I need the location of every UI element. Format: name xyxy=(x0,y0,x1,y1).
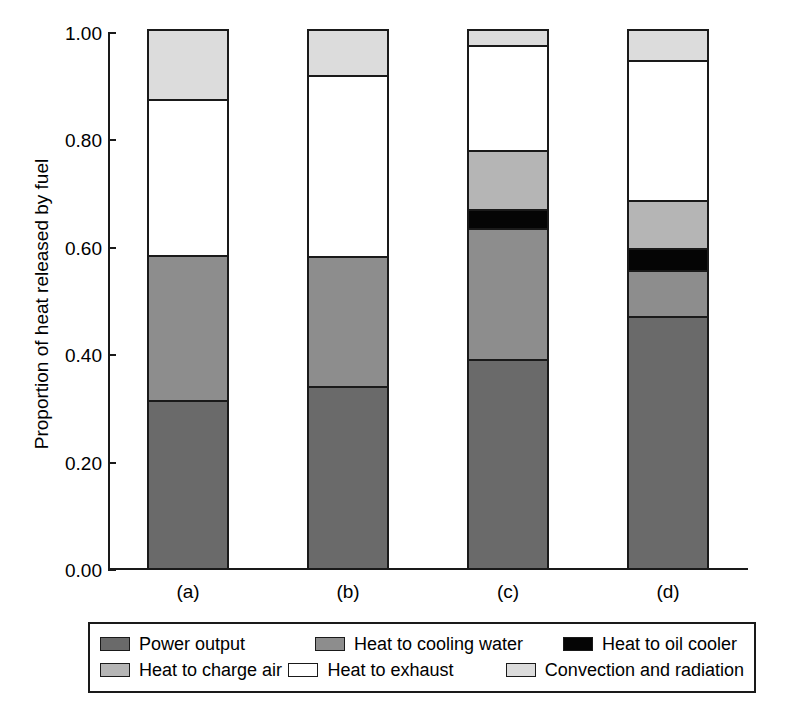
y-tick-mark xyxy=(108,32,116,34)
legend-item[interactable]: Convection and radiation xyxy=(506,660,744,681)
y-tick-label: 0.20 xyxy=(10,453,102,473)
y-axis-line xyxy=(108,33,110,571)
y-tick-label: 0.80 xyxy=(10,130,102,150)
bar-segment[interactable] xyxy=(309,77,387,258)
bar-segment[interactable] xyxy=(469,31,547,47)
bar-segment[interactable] xyxy=(469,230,547,362)
bar-segment[interactable] xyxy=(469,152,547,211)
bar-segment[interactable] xyxy=(629,250,707,271)
legend-row-top: Power outputHeat to cooling waterHeat to… xyxy=(100,631,744,657)
y-tick-mark xyxy=(108,462,116,464)
bar-segment[interactable] xyxy=(629,202,707,250)
plot-area: 0.000.200.400.600.801.00 (a)(b)(c)(d) xyxy=(108,33,748,570)
x-tick-label: (c) xyxy=(453,581,563,603)
y-tick-mark xyxy=(108,139,116,141)
x-tick-label: (a) xyxy=(133,581,243,603)
bar-segment[interactable] xyxy=(309,388,387,568)
bar-segment[interactable] xyxy=(469,211,547,230)
legend-label: Power output xyxy=(139,634,245,655)
x-axis-line xyxy=(108,568,748,570)
bar-segment[interactable] xyxy=(629,31,707,62)
legend-item[interactable]: Heat to oil cooler xyxy=(563,634,737,655)
legend-label: Heat to charge air xyxy=(139,660,282,681)
legend-label: Heat to exhaust xyxy=(327,660,453,681)
bar-segment[interactable] xyxy=(149,101,227,257)
bar-segment[interactable] xyxy=(149,31,227,101)
y-tick-label: 1.00 xyxy=(10,23,102,43)
bar-segment[interactable] xyxy=(469,361,547,568)
bar-segment[interactable] xyxy=(629,62,707,202)
legend-swatch-icon xyxy=(315,637,345,651)
stacked-bar[interactable] xyxy=(307,29,389,568)
stacked-bar-chart-figure: Proportion of heat released by fuel 0.00… xyxy=(0,0,805,707)
x-tick-label: (b) xyxy=(293,581,403,603)
legend-label: Heat to cooling water xyxy=(354,634,523,655)
legend-label: Heat to oil cooler xyxy=(602,634,737,655)
legend-swatch-icon xyxy=(288,663,318,677)
stacked-bar[interactable] xyxy=(467,29,549,568)
legend-swatch-icon xyxy=(100,637,130,651)
bar-segment[interactable] xyxy=(469,47,547,152)
y-tick-label: 0.60 xyxy=(10,238,102,258)
legend-swatch-icon xyxy=(563,637,593,651)
bar-segment[interactable] xyxy=(149,402,227,568)
bar-segment[interactable] xyxy=(149,257,227,402)
bar-segment[interactable] xyxy=(309,258,387,388)
y-tick-mark xyxy=(108,569,116,571)
y-tick-label: 0.40 xyxy=(10,345,102,365)
y-tick-mark xyxy=(108,247,116,249)
legend-swatch-icon xyxy=(100,663,130,677)
legend-label: Convection and radiation xyxy=(545,660,744,681)
bar-segment[interactable] xyxy=(309,31,387,77)
chart-legend: Power outputHeat to cooling waterHeat to… xyxy=(88,622,756,693)
y-tick-label: 0.00 xyxy=(10,560,102,580)
y-axis-title: Proportion of heat released by fuel xyxy=(31,24,53,584)
legend-item[interactable]: Heat to cooling water xyxy=(315,634,563,655)
legend-item[interactable]: Power output xyxy=(100,634,315,655)
legend-item[interactable]: Heat to charge air xyxy=(100,660,288,681)
bar-segment[interactable] xyxy=(629,272,707,319)
stacked-bar[interactable] xyxy=(147,29,229,568)
legend-swatch-icon xyxy=(506,663,536,677)
legend-row-bottom: Heat to charge airHeat to exhaustConvect… xyxy=(100,657,744,683)
stacked-bar[interactable] xyxy=(627,29,709,568)
bar-segment[interactable] xyxy=(629,318,707,568)
x-tick-label: (d) xyxy=(613,581,723,603)
legend-item[interactable]: Heat to exhaust xyxy=(288,660,505,681)
y-tick-mark xyxy=(108,354,116,356)
